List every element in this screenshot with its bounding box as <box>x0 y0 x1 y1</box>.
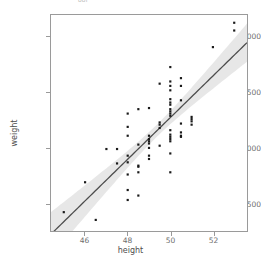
data-point <box>95 219 97 221</box>
x-tick-label: 50 <box>166 236 176 245</box>
data-point <box>169 129 171 131</box>
data-point <box>169 101 171 103</box>
data-point <box>148 142 150 144</box>
data-point <box>159 83 161 85</box>
x-tick-mark <box>214 232 215 236</box>
data-point <box>169 152 171 154</box>
data-point <box>127 155 129 157</box>
data-point <box>233 22 235 24</box>
data-point <box>137 144 139 146</box>
data-point <box>159 124 161 126</box>
y-axis-label: weight <box>10 103 19 163</box>
data-point <box>169 112 171 114</box>
data-point <box>159 127 161 129</box>
data-point <box>180 85 182 87</box>
x-axis-label: height <box>0 246 261 255</box>
data-point <box>148 135 150 137</box>
data-point <box>191 120 193 122</box>
data-point <box>148 158 150 160</box>
data-point <box>127 126 129 128</box>
clipped-header-text: ool <box>0 0 261 6</box>
data-point <box>169 66 171 68</box>
data-point <box>169 80 171 82</box>
data-point <box>105 148 107 150</box>
x-tick-label: 48 <box>123 236 133 245</box>
data-point <box>169 171 171 173</box>
data-point <box>169 104 171 106</box>
data-point <box>127 161 129 163</box>
data-point <box>212 46 214 48</box>
data-point <box>180 136 182 138</box>
scatter-plot-svg <box>51 15 247 231</box>
data-point <box>127 112 129 114</box>
data-point <box>191 124 193 126</box>
data-point <box>180 99 182 101</box>
x-tick-mark <box>127 232 128 236</box>
data-point <box>137 194 139 196</box>
data-point <box>169 115 171 117</box>
x-tick-label: 52 <box>209 236 219 245</box>
data-point <box>148 138 150 140</box>
data-point <box>159 121 161 123</box>
data-point <box>137 108 139 110</box>
confidence-band <box>51 24 247 231</box>
data-point <box>191 118 193 120</box>
data-point <box>169 89 171 91</box>
data-point <box>169 134 171 136</box>
data-point <box>127 135 129 137</box>
data-point <box>169 136 171 138</box>
data-point <box>169 98 171 100</box>
data-point <box>180 122 182 124</box>
data-point <box>169 108 171 110</box>
data-point <box>148 155 150 157</box>
data-point <box>159 145 161 147</box>
plot-panel <box>50 14 248 232</box>
data-point <box>180 77 182 79</box>
data-point <box>169 138 171 140</box>
data-point <box>148 140 150 142</box>
data-point <box>127 189 129 191</box>
data-point <box>169 85 171 87</box>
data-point <box>84 181 86 183</box>
header-fragment-1: ool <box>78 0 88 3</box>
chart-figure: ool 2500300035004000 46485052 height wei… <box>0 0 261 266</box>
data-point <box>191 116 193 118</box>
data-point <box>169 140 171 142</box>
data-point <box>169 110 171 112</box>
data-point <box>148 107 150 109</box>
data-point <box>127 199 129 201</box>
data-point <box>180 131 182 133</box>
data-point <box>127 173 129 175</box>
data-point <box>137 166 139 168</box>
data-point <box>63 211 65 213</box>
x-tick-label: 46 <box>80 236 90 245</box>
data-point <box>116 162 118 164</box>
data-point <box>116 148 118 150</box>
x-tick-mark <box>171 232 172 236</box>
data-point <box>137 171 139 173</box>
x-tick-mark <box>84 232 85 236</box>
data-point <box>233 29 235 31</box>
data-point <box>148 147 150 149</box>
